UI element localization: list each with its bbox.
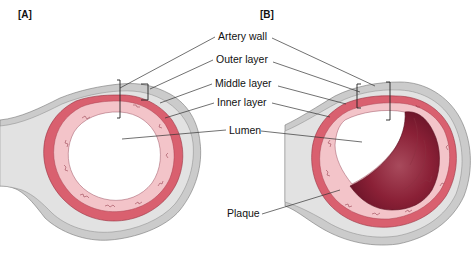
label-inner-layer: Inner layer [217,96,267,108]
lumen-a [68,112,160,200]
label-plaque: Plaque [227,207,260,219]
panel-label-b: [B] [260,9,274,20]
label-lumen: Lumen [229,124,261,136]
artery-b [285,82,470,245]
label-middle-layer: Middle layer [215,77,272,89]
panel-label-a: [A] [18,9,32,20]
label-outer-layer: Outer layer [216,53,268,65]
artery-diagram: [A] [B] Artery wall Outer layer Middle l… [0,0,475,254]
artery-a [0,83,201,240]
label-artery-wall: Artery wall [218,30,267,42]
